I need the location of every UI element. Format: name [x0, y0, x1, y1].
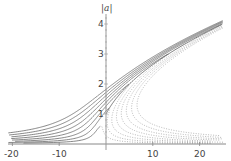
- response-curve-f3: [112, 84, 223, 142]
- response-curve-f2: [107, 108, 210, 143]
- y-axis-title: |a|: [101, 3, 112, 14]
- x-tick-label-neg20: -20: [4, 149, 19, 159]
- curve-family: [8, 21, 223, 144]
- y-tick-label-3: 3: [98, 49, 104, 59]
- response-curve-f6: [126, 26, 222, 139]
- response-curve-f5: [121, 25, 222, 140]
- response-curve-f7: [9, 22, 223, 135]
- frequency-response-plot: |a| -20 -10 10 20 1 2 3 4: [0, 0, 231, 161]
- response-curve-f7: [132, 27, 223, 137]
- y-tick-label-4: 4: [98, 19, 104, 29]
- response-curve-f6: [11, 23, 222, 137]
- y-tick-label-1: 1: [98, 109, 104, 119]
- y-tick-label-2: 2: [98, 79, 104, 89]
- response-curve-f1: [102, 126, 211, 143]
- response-curve-f4: [116, 54, 210, 141]
- chart-container: |a| -20 -10 10 20 1 2 3 4: [0, 0, 231, 161]
- x-tick-label-20: 20: [194, 149, 206, 159]
- response-curve-f3: [15, 84, 129, 141]
- x-tick-label-10: 10: [147, 149, 159, 159]
- x-tick-label-neg10: -10: [52, 149, 67, 159]
